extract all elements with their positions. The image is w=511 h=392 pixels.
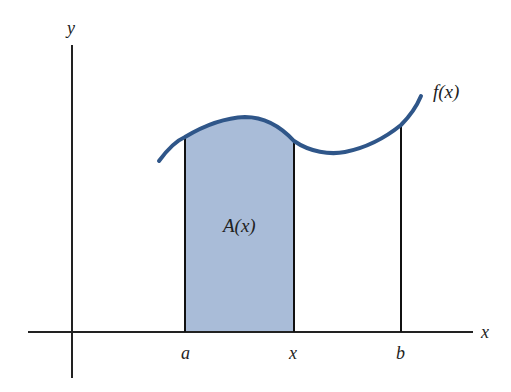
function-label: f(x)	[433, 81, 459, 103]
tick-label-x: x	[288, 343, 297, 363]
tick-label-b: b	[396, 343, 405, 363]
y-axis-label: y	[65, 18, 75, 38]
area-function-diagram: y f(x) A(x) a x b x	[0, 0, 511, 392]
x-axis-label: x	[480, 322, 489, 342]
tick-label-a: a	[181, 343, 190, 363]
area-label: A(x)	[221, 215, 256, 237]
